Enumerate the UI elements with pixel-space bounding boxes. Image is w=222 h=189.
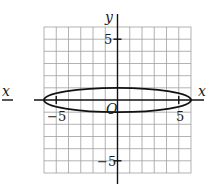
x-axis-label-right: x (198, 83, 206, 99)
x-axis-label-left: x (2, 83, 10, 99)
x-tick-pos5: 5 (176, 109, 184, 124)
graph: x x y O −5 5 5 −5 (0, 0, 222, 189)
origin-label: O (106, 101, 118, 117)
x-tick-neg5: −5 (47, 109, 66, 124)
y-tick-pos5: 5 (104, 32, 112, 47)
y-tick-neg5: −5 (97, 154, 116, 169)
y-axis-label: y (104, 9, 114, 25)
